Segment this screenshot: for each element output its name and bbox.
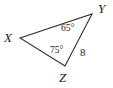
vertex-label-y: Y (98, 2, 105, 15)
vertex-label-z: Z (59, 71, 66, 84)
triangle-drawing (0, 0, 113, 88)
vertex-label-x: X (4, 31, 12, 44)
triangle-outline (20, 14, 92, 66)
angle-label-z: 75° (50, 45, 63, 55)
side-label-yz: 8 (80, 47, 86, 58)
triangle-figure: X Y Z 65° 75° 8 (0, 0, 113, 88)
angle-label-y: 65° (61, 23, 74, 33)
